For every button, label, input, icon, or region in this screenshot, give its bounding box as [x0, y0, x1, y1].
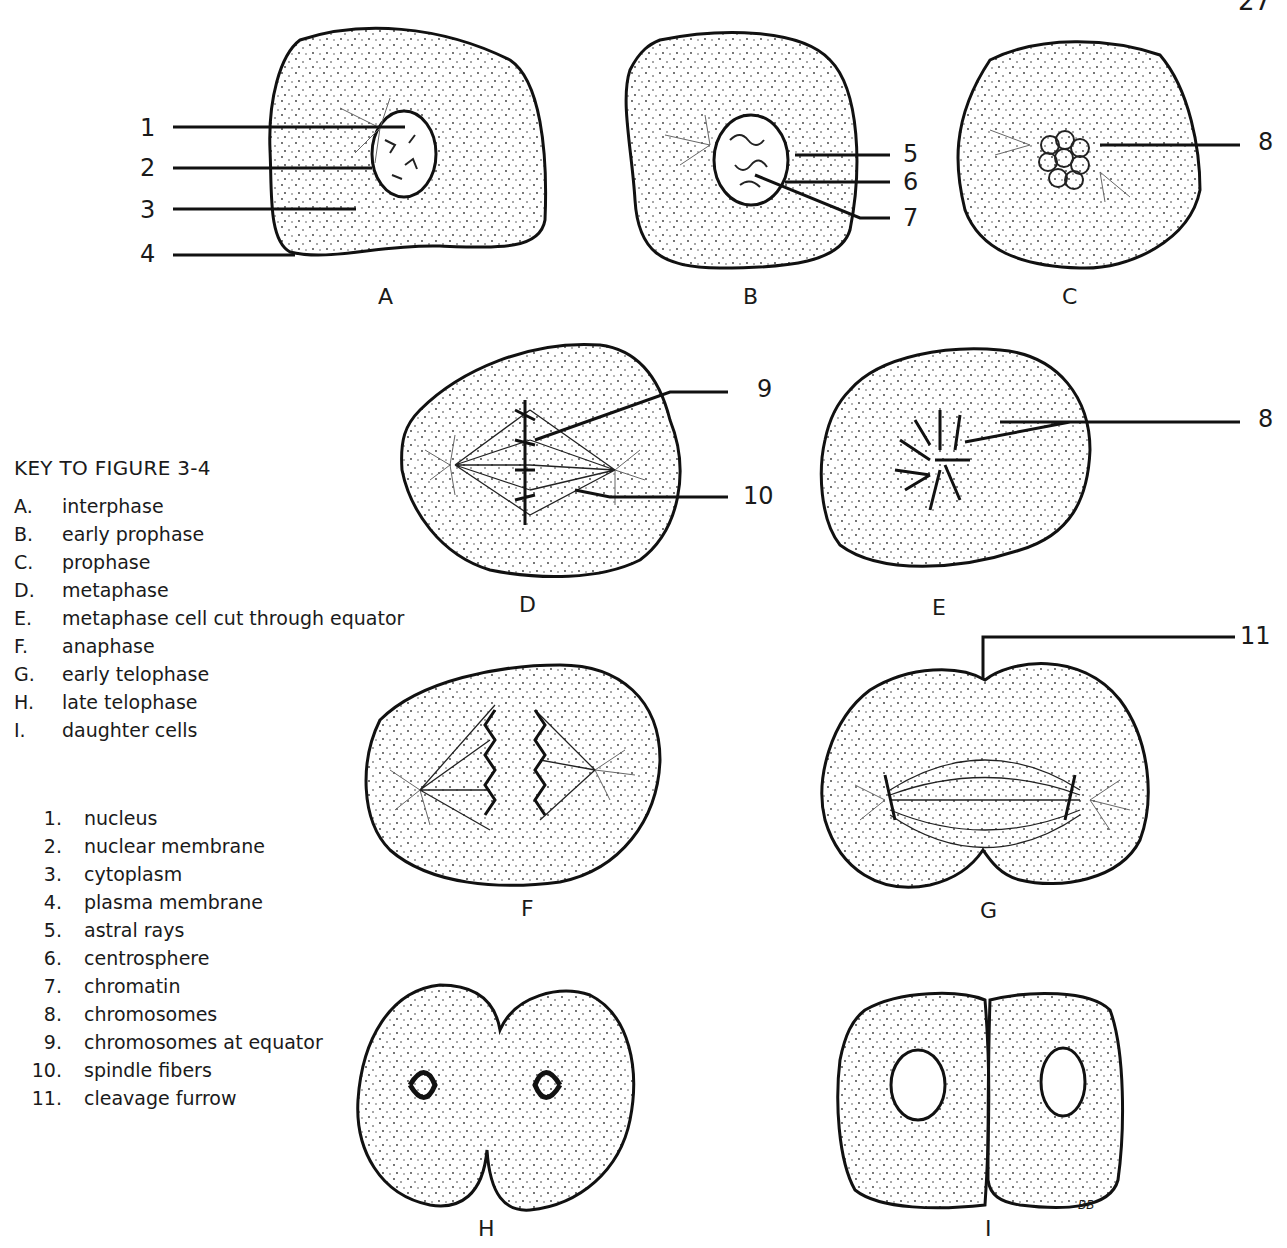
cell-label-d: D	[519, 592, 536, 617]
cell-g	[822, 664, 1148, 888]
callout-8-e: 8	[1258, 405, 1273, 433]
key-item: 11.cleavage furrow	[0, 1084, 323, 1112]
cell-label-b: B	[743, 284, 758, 309]
key-item: 5.astral rays	[0, 916, 323, 944]
artist-signature: BB	[1078, 1198, 1094, 1212]
key-item: 2.nuclear membrane	[0, 832, 323, 860]
cell-label-c: C	[1062, 284, 1077, 309]
cell-h	[358, 985, 634, 1210]
key-item: I.daughter cells	[14, 716, 404, 744]
callout-2: 2	[140, 154, 155, 182]
callout-6: 6	[903, 168, 918, 196]
key-item: H.late telophase	[14, 688, 404, 716]
cell-c	[958, 42, 1200, 268]
cell-e	[821, 349, 1090, 566]
key-item: 1.nucleus	[0, 804, 323, 832]
key-item: 4.plasma membrane	[0, 888, 323, 916]
figure-key-parts: 1.nucleus 2.nuclear membrane 3.cytoplasm…	[0, 804, 323, 1112]
key-item: 9.chromosomes at equator	[0, 1028, 323, 1056]
callout-1: 1	[140, 114, 155, 142]
key-item: 7.chromatin	[0, 972, 323, 1000]
cell-label-a: A	[378, 284, 393, 309]
key-item: E.metaphase cell cut through equator	[14, 604, 404, 632]
nucleus-b	[714, 115, 788, 205]
callout-7: 7	[903, 204, 918, 232]
cell-label-e: E	[932, 595, 946, 620]
figure-key-stages: KEY TO FIGURE 3-4 A.interphase B.early p…	[14, 454, 404, 744]
key-item: 10.spindle fibers	[0, 1056, 323, 1084]
key-item: C.prophase	[14, 548, 404, 576]
key-item: F.anaphase	[14, 632, 404, 660]
cell-label-f: F	[521, 896, 534, 921]
key-item: D.metaphase	[14, 576, 404, 604]
callout-11: 11	[1240, 622, 1271, 650]
callout-4: 4	[140, 240, 155, 268]
callout-10: 10	[743, 482, 774, 510]
nucleus-i-left	[891, 1050, 945, 1120]
key-item: G.early telophase	[14, 660, 404, 688]
cell-f	[366, 665, 660, 885]
callout-3: 3	[140, 196, 155, 224]
key-item: A.interphase	[14, 492, 404, 520]
cell-label-h: H	[478, 1216, 495, 1241]
key-item: 3.cytoplasm	[0, 860, 323, 888]
key-item: B.early prophase	[14, 520, 404, 548]
callout-9: 9	[757, 375, 772, 403]
key-title: KEY TO FIGURE 3-4	[14, 454, 404, 482]
key-item: 8.chromosomes	[0, 1000, 323, 1028]
nucleus-i-right	[1041, 1048, 1085, 1116]
callout-5: 5	[903, 140, 918, 168]
key-item: 6.centrosphere	[0, 944, 323, 972]
cell-label-i: I	[985, 1216, 992, 1241]
cell-label-g: G	[980, 898, 997, 923]
callout-8-c: 8	[1258, 128, 1273, 156]
